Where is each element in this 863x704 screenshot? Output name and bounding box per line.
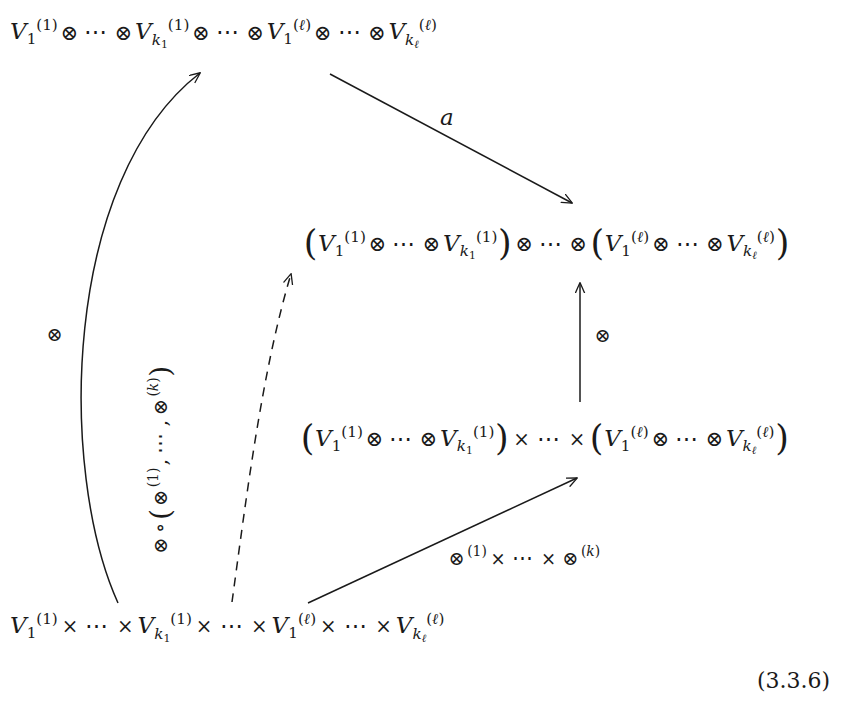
arrow-dashed-diagonal-path [232,274,291,602]
arrow-vertical-label: ⊗ [592,325,613,346]
ellipsis: ⋯ [81,18,112,44]
tensor-symbol: ⊗ [566,231,589,256]
node-bottom-product: V1(1)×⋯×Vk1(1)×⋯×V1(ℓ)×⋯×Vkℓ(ℓ) [10,612,444,644]
right-paren: ) [775,223,790,263]
math-token: Vkℓ(ℓ) [396,612,445,638]
cross-symbol: × [247,615,271,638]
arrow-diagonal-a-label: a [440,106,454,129]
math-token: Vk1(1) [135,18,189,44]
tensor-symbol: ⊗ [112,20,135,45]
ellipsis: ⋯ [213,18,244,44]
ellipsis: ⋯ [216,612,247,638]
ellipsis: ⋯ [341,612,372,638]
math-token: V1(1) [10,612,58,638]
ellipsis: ⋯ [82,612,113,638]
tensor-symbol: ⊗ [592,324,613,347]
cross-symbol: × [316,615,340,638]
ellipsis: ⋯ [672,230,703,256]
node-lower-product-grouped: (V1(1)⊗⋯⊗Vk1(1))×⋯×(V1(ℓ)⊗⋯⊗Vkℓ(ℓ)) [300,417,789,457]
arrow-diagonal-a-path [330,74,572,203]
tensor-symbol: ⊗ [58,20,81,45]
math-token: V1(ℓ) [605,230,649,256]
node-top-tensor: V1(1)⊗⋯⊗Vk1(1)⊗⋯⊗V1(ℓ)⊗⋯⊗Vkℓ(ℓ) [10,18,437,50]
comma-symbol: , [148,457,172,468]
math-token: Vk1(1) [138,612,192,638]
ellipsis: ⋯ [509,546,537,570]
superscript: (1) [145,468,161,488]
left-paren: ( [144,508,177,520]
cross-symbol: × [371,615,395,638]
right-paren: ) [497,223,512,263]
left-paren: ( [303,223,318,263]
arrow-layer [0,0,863,704]
math-token: V1(1) [10,18,58,44]
cross-symbol: × [487,548,509,569]
tensor-symbol: ⊗ [366,231,389,256]
ellipsis: ⋯ [534,425,565,451]
tensor-symbol: ⊗ [417,426,440,451]
tensor-symbol: ⊗ [149,487,172,508]
right-paren: ) [494,418,509,458]
left-paren: ( [589,418,604,458]
figure-canvas: V1(1)⊗⋯⊗Vk1(1)⊗⋯⊗V1(ℓ)⊗⋯⊗Vkℓ(ℓ) (V1(1)⊗⋯… [0,0,863,704]
tensor-symbol: ⊗ [189,20,212,45]
tensor-symbol: ⊗ [512,231,535,256]
ellipsis: ⋯ [148,429,172,457]
math-token: V1(ℓ) [272,612,316,638]
cross-symbol: × [58,615,82,638]
ellipsis: ⋯ [672,425,703,451]
math-token: Vkℓ(ℓ) [726,230,775,256]
tensor-symbol: ⊗ [44,323,65,346]
tensor-symbol: ⊗ [420,231,443,256]
tensor-symbol: ⊗ [703,231,726,256]
tensor-symbol: ⊗ [560,547,581,570]
math-token: Vk1(1) [440,425,494,451]
tensor-symbol: ⊗ [243,20,266,45]
ellipsis: ⋯ [386,425,417,451]
superscript: (k) [145,377,161,396]
ellipsis: ⋯ [334,18,365,44]
tensor-symbol: ⊗ [149,397,172,418]
ellipsis: ⋯ [389,230,420,256]
ellipsis: ⋯ [536,230,567,256]
arrow-left-curve-label: ⊗ [44,324,65,345]
superscript: (1) [467,543,487,559]
tensor-symbol: ⊗ [149,535,172,556]
math-token: Vk1(1) [443,230,497,256]
math-token: V1(ℓ) [267,18,311,44]
math-token: Vkℓ(ℓ) [388,18,437,44]
right-paren: ) [774,418,789,458]
arrow-bottom-diagonal-label: ⊗(1)×⋯×⊗(k) [446,545,600,569]
cross-symbol: × [565,428,589,451]
arrow-bottom-diagonal-path [308,478,577,603]
tensor-symbol: ⊗ [649,231,672,256]
arrow-dashed-diagonal-label: ⊗∘(⊗(1),⋯,⊗(k)) [144,365,172,556]
tensor-symbol: ⊗ [311,20,334,45]
tensor-symbol: ⊗ [363,426,386,451]
cross-symbol: × [113,615,137,638]
left-paren: ( [590,223,605,263]
composition-symbol: ∘ [148,521,172,535]
cross-symbol: × [192,615,216,638]
tensor-symbol: ⊗ [365,20,388,45]
math-token: V1(1) [318,230,366,256]
equation-number: (3.3.6) [757,668,830,693]
math-token: V1(ℓ) [604,425,648,451]
arrow-left-curve-path [81,73,200,603]
cross-symbol: × [537,548,559,569]
node-middle-tensor-grouped: (V1(1)⊗⋯⊗Vk1(1))⊗⋯⊗(V1(ℓ)⊗⋯⊗Vkℓ(ℓ)) [303,222,790,262]
tensor-symbol: ⊗ [703,426,726,451]
arrow-label-text: a [440,104,454,130]
tensor-symbol: ⊗ [446,547,467,570]
left-paren: ( [300,418,315,458]
cross-symbol: × [509,428,533,451]
tensor-symbol: ⊗ [649,426,672,451]
comma-symbol: , [148,418,172,429]
math-token: Vkℓ(ℓ) [726,425,775,451]
superscript: (k) [581,543,600,559]
math-token: V1(1) [315,425,363,451]
right-paren: ) [144,365,177,377]
